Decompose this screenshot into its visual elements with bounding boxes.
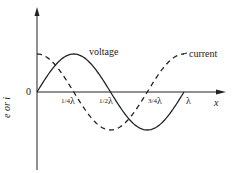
y-axis-arrow-icon [35,7,40,16]
tick-three-quarter-lambda-symbol: λ [157,95,162,106]
current-label: current [189,49,217,59]
tick-quarter-lambda: 1/4λ [61,96,75,106]
current-leader-line [183,53,187,54]
tick-three-quarter-lambda: 3/4λ [148,96,162,106]
voltage-label: voltage [89,47,118,57]
tick-half-fraction: 1/2 [99,97,108,105]
y-axis-label: e or i [1,97,12,118]
x-axis-label: x [214,98,218,108]
x-axis-arrow-icon [216,90,226,95]
waveform-diagram [0,0,234,173]
tick-lambda: λ [186,96,191,106]
tick-quarter-lambda-symbol: λ [70,95,75,106]
tick-quarter-fraction: 1/4 [61,97,70,105]
tick-half-lambda: 1/2λ [99,96,113,106]
tick-half-lambda-symbol: λ [108,95,113,106]
tick-three-quarter-fraction: 3/4 [148,97,157,105]
origin-label: 0 [26,87,31,97]
